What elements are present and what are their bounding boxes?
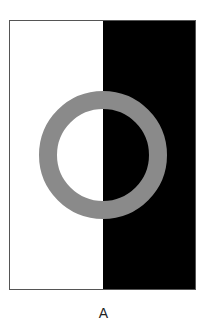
figure-label: A xyxy=(0,305,207,321)
illusion-figure xyxy=(0,0,207,332)
